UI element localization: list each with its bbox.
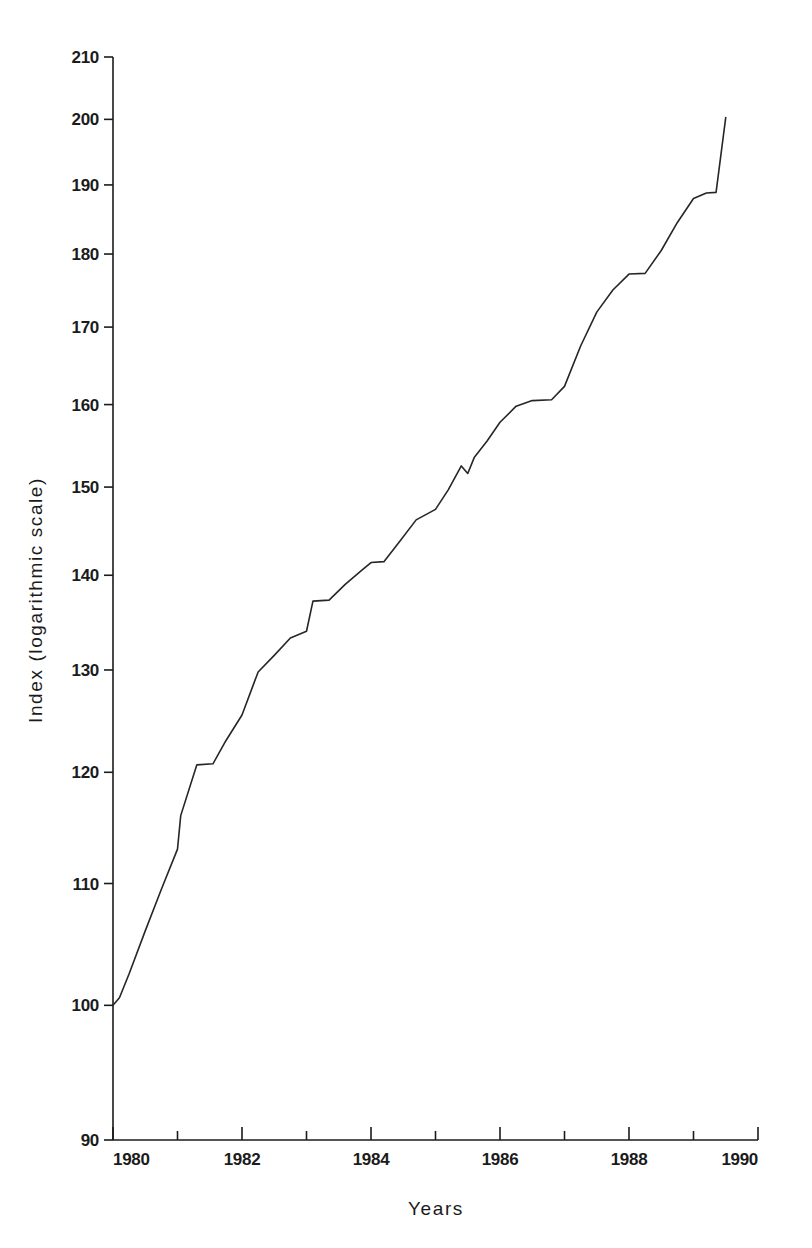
x-tick-label: 1990 <box>721 1150 758 1169</box>
x-tick-label: 1980 <box>113 1150 150 1169</box>
x-tick-label: 1984 <box>353 1150 390 1169</box>
x-tick-label: 1988 <box>611 1150 648 1169</box>
y-tick-label: 170 <box>72 318 99 337</box>
y-tick-label: 140 <box>72 566 99 585</box>
axes <box>113 57 758 1140</box>
x-axis-tick-labels: 198019821984198619881990 <box>113 1150 758 1169</box>
x-tick-label: 1982 <box>224 1150 261 1169</box>
y-tick-label: 210 <box>72 48 99 67</box>
y-tick-label: 90 <box>81 1131 99 1150</box>
y-tick-label: 160 <box>72 396 99 415</box>
x-tick-label: 1986 <box>482 1150 519 1169</box>
y-tick-label: 130 <box>72 661 99 680</box>
y-axis-title: Index (logarithmic scale) <box>25 477 46 723</box>
y-tick-label: 200 <box>72 110 99 129</box>
y-tick-label: 100 <box>72 996 99 1015</box>
y-tick-label: 150 <box>72 478 99 497</box>
y-tick-label: 120 <box>72 763 99 782</box>
data-series <box>113 117 726 1005</box>
tick-marks <box>104 57 758 1140</box>
chart-container: 90100110120130140150160170180190200210 1… <box>0 0 812 1248</box>
y-tick-label: 110 <box>72 875 99 894</box>
series-line <box>113 117 726 1005</box>
y-tick-label: 180 <box>72 245 99 264</box>
y-tick-label: 190 <box>72 176 99 195</box>
line-chart: 90100110120130140150160170180190200210 1… <box>0 0 812 1248</box>
x-axis-title: Years <box>408 1198 464 1219</box>
y-axis-tick-labels: 90100110120130140150160170180190200210 <box>72 48 99 1150</box>
